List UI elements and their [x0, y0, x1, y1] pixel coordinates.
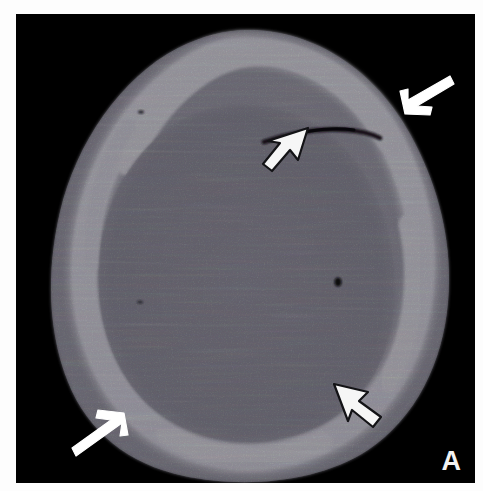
page-margin-left: [0, 0, 16, 491]
page-margin-top: [0, 0, 483, 14]
page-margin-right: [475, 0, 483, 491]
focal-hypodensity: [334, 277, 341, 286]
film-speck-upper-left: [138, 110, 144, 114]
panel-letter: A: [442, 448, 462, 475]
film-speck-left: [137, 300, 143, 303]
ct-scan-image: [16, 14, 475, 483]
figure-root: A: [0, 0, 483, 491]
ct-scan-viewport: A: [16, 14, 475, 483]
page-margin-bottom: [0, 483, 483, 491]
